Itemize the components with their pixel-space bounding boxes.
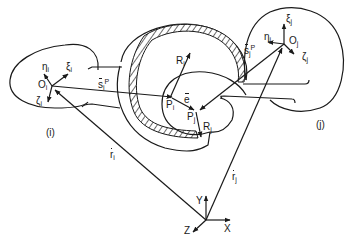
label-P-i: Pi	[166, 100, 174, 111]
label-s-j-P: sjP	[244, 44, 255, 57]
label-s-i-P: siP	[98, 78, 109, 91]
label-r-j: rj	[232, 172, 237, 183]
body-i-arm-lower	[82, 104, 120, 108]
label-global-y: Y	[196, 196, 203, 206]
label-P-j: Pj	[187, 112, 195, 123]
label-R-j: Rj	[203, 122, 212, 133]
body-i-outline	[10, 44, 98, 108]
label-origin-i: Oi	[38, 80, 47, 91]
label-global-x: X	[224, 224, 231, 234]
label-origin-j: Oj	[289, 36, 298, 47]
label-body-i: (i)	[46, 128, 55, 138]
global-z-axis	[193, 220, 206, 232]
label-r-i: ri	[110, 150, 115, 161]
vector-e	[172, 98, 194, 110]
body-i-arm	[88, 67, 122, 69]
vector-s-i-P	[52, 86, 172, 97]
vector-r-i	[55, 90, 206, 220]
label-zeta-j: ζj	[302, 52, 308, 63]
body-j-arm	[243, 80, 309, 84]
body-j-outline	[244, 8, 343, 111]
label-xi-i: ξi	[66, 62, 72, 73]
label-e: e	[184, 95, 190, 105]
revolute-joint-diagram: ηi ξi Oi ζi (i) siP Ri Pi e Pj Rj sjP ξj…	[0, 0, 349, 246]
label-xi-j: ξj	[286, 14, 292, 25]
label-body-j: (j)	[316, 120, 325, 130]
label-global-z: Z	[184, 226, 190, 236]
label-zeta-i: ζi	[36, 96, 42, 107]
label-R-i: Ri	[176, 56, 185, 67]
label-eta-j: ηj	[264, 32, 271, 43]
label-eta-i: ηi	[42, 62, 49, 73]
